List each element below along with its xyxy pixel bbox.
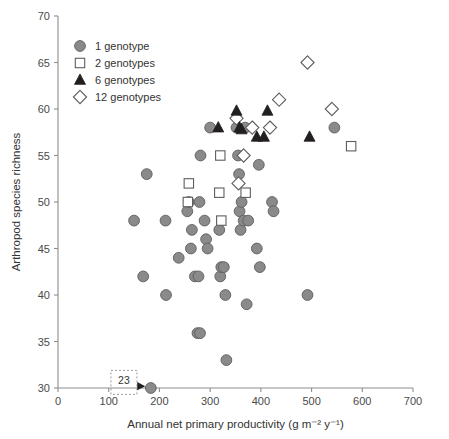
x-tick-label: 0 xyxy=(55,395,61,407)
data-point-circle xyxy=(221,355,232,366)
data-point-diamond xyxy=(273,93,286,106)
data-points xyxy=(129,56,356,394)
data-point-triangle xyxy=(262,105,273,115)
data-point-diamond xyxy=(263,121,276,134)
data-point-circle xyxy=(253,159,264,170)
data-point-circle xyxy=(145,383,156,394)
x-tick-label: 100 xyxy=(100,395,118,407)
x-axis-title: Annual net primary productivity (g m⁻² y… xyxy=(127,418,344,430)
legend-label-3: 12 genotypes xyxy=(95,91,162,103)
data-point-diamond xyxy=(301,56,314,69)
data-point-circle xyxy=(194,197,205,208)
plot-canvas: 3035404550556065700100200300400500600700… xyxy=(0,0,449,439)
y-tick-label: 45 xyxy=(38,243,50,255)
data-point-circle xyxy=(214,225,225,236)
x-tick-label: 300 xyxy=(201,395,219,407)
data-point-square xyxy=(217,216,226,225)
legend-marker-circle xyxy=(75,41,86,52)
legend-label-1: 2 genotypes xyxy=(95,57,155,69)
data-point-triangle xyxy=(304,131,315,141)
data-point-square xyxy=(241,188,250,197)
legend: 1 genotype2 genotypes6 genotypes12 genot… xyxy=(73,40,161,104)
y-tick-label: 70 xyxy=(38,10,50,22)
annotation-layer: 23 xyxy=(111,370,145,394)
x-tick-label: 700 xyxy=(404,395,422,407)
data-point-circle xyxy=(161,290,172,301)
legend-marker-square xyxy=(75,58,84,67)
legend-marker-diamond xyxy=(73,90,86,103)
data-point-circle xyxy=(195,150,206,161)
y-tick-label: 50 xyxy=(38,196,50,208)
legend-label-0: 1 genotype xyxy=(95,40,149,52)
x-tick-label: 400 xyxy=(252,395,270,407)
annotation-text: 23 xyxy=(118,374,130,386)
data-point-circle xyxy=(186,225,197,236)
data-point-circle xyxy=(138,271,149,282)
data-point-diamond xyxy=(325,102,338,115)
data-point-circle xyxy=(173,252,184,263)
data-point-circle xyxy=(199,215,210,226)
data-point-circle xyxy=(329,122,340,133)
data-point-circle xyxy=(160,215,171,226)
data-point-square xyxy=(184,179,193,188)
series-6-genotypes xyxy=(213,105,315,141)
legend-marker-triangle xyxy=(75,74,86,84)
data-point-circle xyxy=(202,243,213,254)
scatter-plot-figure: 3035404550556065700100200300400500600700… xyxy=(0,0,449,439)
y-tick-label: 55 xyxy=(38,150,50,162)
y-tick-label: 65 xyxy=(38,57,50,69)
data-point-circle xyxy=(195,328,206,339)
data-point-circle xyxy=(302,290,313,301)
data-point-circle xyxy=(241,299,252,310)
data-point-triangle xyxy=(231,105,242,115)
x-tick-label: 600 xyxy=(353,395,371,407)
data-point-circle xyxy=(220,290,231,301)
data-point-square xyxy=(346,142,355,151)
y-axis-title: Arthropod species richness xyxy=(10,132,22,271)
y-tick-label: 35 xyxy=(38,336,50,348)
legend-label-2: 6 genotypes xyxy=(95,74,155,86)
data-point-circle xyxy=(129,215,140,226)
y-tick-label: 30 xyxy=(38,382,50,394)
data-point-circle xyxy=(243,215,254,226)
data-point-circle xyxy=(141,169,152,180)
data-point-circle xyxy=(254,262,265,273)
y-tick-label: 60 xyxy=(38,103,50,115)
data-point-circle xyxy=(236,197,247,208)
data-point-circle xyxy=(185,243,196,254)
y-tick-label: 40 xyxy=(38,289,50,301)
data-point-square xyxy=(215,188,224,197)
axis-titles: Annual net primary productivity (g m⁻² y… xyxy=(10,132,344,430)
data-point-circle xyxy=(193,271,204,282)
data-point-square xyxy=(216,151,225,160)
series-1-genotype xyxy=(129,122,340,393)
data-point-circle xyxy=(268,206,279,217)
x-tick-label: 200 xyxy=(150,395,168,407)
data-point-circle xyxy=(218,262,229,273)
data-point-square xyxy=(183,197,192,206)
axes: 3035404550556065700100200300400500600700 xyxy=(38,10,422,407)
annotation-arrow-head xyxy=(137,382,145,390)
data-point-circle xyxy=(251,243,262,254)
x-tick-label: 500 xyxy=(302,395,320,407)
